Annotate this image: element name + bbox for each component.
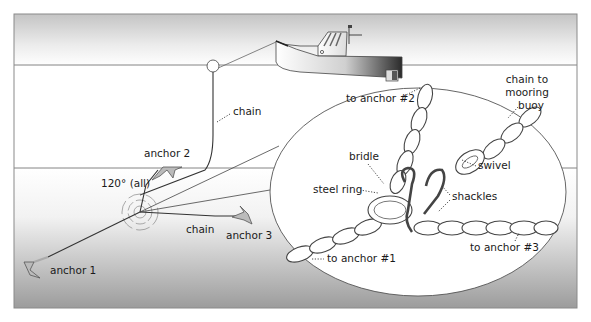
chain-to-buoy-label-1: chain to <box>506 73 548 85</box>
chain-bottom-label: chain <box>186 223 214 235</box>
mooring-diagram: chain anchor 2 120° (all) chain anchor 3… <box>0 0 591 322</box>
chain-to-buoy-label-2: mooring <box>505 86 549 98</box>
mooring-buoy-icon <box>207 60 219 72</box>
steel-ring-label: steel ring <box>313 183 362 195</box>
to-anchor-2-label: to anchor #2 <box>346 92 415 104</box>
anchor-3-label: anchor 3 <box>226 229 272 241</box>
anchor-1-label: anchor 1 <box>50 264 96 276</box>
chain-top-label: chain <box>233 105 261 117</box>
diagram-canvas: chain anchor 2 120° (all) chain anchor 3… <box>0 0 591 322</box>
swivel-label: swivel <box>478 159 511 171</box>
shackles-label: shackles <box>452 190 497 202</box>
to-anchor-3-label: to anchor #3 <box>470 241 539 253</box>
bridle-label: bridle <box>349 150 379 162</box>
to-anchor-1-label: to anchor #1 <box>327 252 396 264</box>
anchor-2-label: anchor 2 <box>144 147 190 159</box>
angle-label: 120° (all) <box>101 177 150 189</box>
chain-to-buoy-label-3: buoy <box>518 99 544 111</box>
